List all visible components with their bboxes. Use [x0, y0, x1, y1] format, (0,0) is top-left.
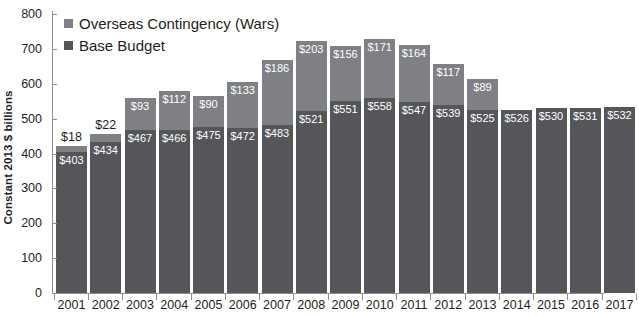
y-axis-tick-label: 700 — [8, 43, 42, 55]
bar-group[interactable]: $434$22 — [90, 134, 121, 293]
bar-value-label-overseas-contingency: $186 — [262, 63, 293, 74]
bar-value-label-base-budget: $403 — [56, 155, 87, 166]
bar-segment-base-budget[interactable]: $539 — [433, 105, 464, 293]
legend-swatch-icon — [64, 41, 73, 50]
bar-group[interactable]: $530 — [536, 108, 567, 293]
y-axis-tick-mark — [52, 49, 57, 50]
bar-segment-overseas-contingency[interactable]: $117 — [433, 64, 464, 105]
x-axis-tick-label: 2017 — [600, 298, 639, 312]
legend-label: Base Budget — [79, 38, 165, 53]
bar-value-label-overseas-contingency: $117 — [433, 67, 464, 78]
bar-value-label-base-budget: $472 — [227, 131, 258, 142]
bar-value-label-base-budget: $551 — [330, 104, 361, 115]
bar-value-label-base-budget: $530 — [536, 111, 567, 122]
bar-value-label-base-budget: $483 — [262, 128, 293, 139]
bar-value-label-base-budget: $434 — [90, 145, 121, 156]
y-axis-tick-mark — [52, 14, 57, 15]
x-axis-tick-label: 2001 — [52, 298, 91, 312]
bar-segment-base-budget[interactable]: $547 — [399, 102, 430, 293]
y-axis-tick-label: 400 — [8, 148, 42, 160]
bar-value-label-overseas-contingency: $164 — [399, 48, 430, 59]
bar-segment-overseas-contingency[interactable]: $89 — [467, 79, 498, 110]
bar-segment-overseas-contingency[interactable]: $171 — [364, 39, 395, 99]
y-axis-tick-label: 800 — [8, 8, 42, 20]
bar-value-label-base-budget: $532 — [604, 110, 635, 121]
y-axis-tick-label: 100 — [8, 252, 42, 264]
bar-segment-base-budget[interactable]: $472 — [227, 128, 258, 293]
bar-value-label-base-budget: $525 — [467, 113, 498, 124]
bar-segment-overseas-contingency[interactable]: $112 — [159, 91, 190, 130]
bar-segment-base-budget[interactable]: $532 — [604, 107, 635, 293]
bar-group[interactable]: $539$117 — [433, 64, 464, 293]
y-axis-tick-label: 300 — [8, 182, 42, 194]
bar-value-label-overseas-contingency: $93 — [125, 101, 156, 112]
bar-value-label-base-budget: $475 — [193, 130, 224, 141]
bar-group[interactable]: $525$89 — [467, 79, 498, 293]
bar-segment-base-budget[interactable]: $551 — [330, 101, 361, 293]
bar-value-label-base-budget: $467 — [125, 133, 156, 144]
x-axis-tick-label: 2010 — [360, 298, 399, 312]
bar-segment-base-budget[interactable]: $466 — [159, 130, 190, 293]
bar-segment-overseas-contingency[interactable]: $90 — [193, 96, 224, 127]
bar-segment-base-budget[interactable]: $467 — [125, 130, 156, 293]
bar-group[interactable]: $547$164 — [399, 45, 430, 293]
bar-segment-base-budget[interactable]: $558 — [364, 98, 395, 293]
bar-group[interactable]: $403$18 — [56, 146, 87, 293]
bar-segment-base-budget[interactable]: $525 — [467, 110, 498, 293]
y-axis-tick-mark — [52, 258, 57, 259]
x-axis-tick-label: 2008 — [292, 298, 331, 312]
x-axis-tick-label: 2004 — [155, 298, 194, 312]
bar-segment-base-budget[interactable]: $475 — [193, 127, 224, 293]
bar-segment-overseas-contingency[interactable] — [90, 134, 121, 142]
bar-segment-overseas-contingency[interactable]: $133 — [227, 82, 258, 128]
bar-value-label-base-budget: $558 — [364, 101, 395, 112]
bar-group[interactable]: $551$156 — [330, 46, 361, 293]
bar-segment-base-budget[interactable]: $483 — [262, 125, 293, 293]
legend-item[interactable]: Base Budget — [64, 35, 279, 55]
x-axis-tick-label: 2011 — [395, 298, 434, 312]
bar-segment-overseas-contingency[interactable]: $156 — [330, 46, 361, 100]
bar-group[interactable]: $475$90 — [193, 96, 224, 293]
bar-segment-base-budget[interactable]: $434 — [90, 142, 121, 293]
bar-segment-overseas-contingency[interactable]: $164 — [399, 45, 430, 102]
bar-value-label-base-budget: $539 — [433, 108, 464, 119]
y-axis-tick-label: 200 — [8, 217, 42, 229]
bar-value-label-base-budget: $547 — [399, 105, 430, 116]
y-axis-tick-mark — [52, 154, 57, 155]
bar-group[interactable]: $472$133 — [227, 82, 258, 293]
x-axis-tick-label: 2012 — [429, 298, 468, 312]
bar-group[interactable]: $466$112 — [159, 91, 190, 293]
bar-segment-base-budget[interactable]: $526 — [501, 110, 532, 293]
bar-group[interactable]: $483$186 — [262, 60, 293, 293]
bar-value-label-overseas-contingency: $203 — [296, 44, 327, 55]
bar-value-label-base-budget: $526 — [501, 113, 532, 124]
y-axis-tick-mark — [52, 188, 57, 189]
bar-segment-base-budget[interactable]: $530 — [536, 108, 567, 293]
bar-segment-base-budget[interactable]: $531 — [570, 108, 601, 293]
x-axis-tick-label: 2002 — [86, 298, 125, 312]
y-axis-tick-label: 500 — [8, 113, 42, 125]
bar-group[interactable]: $526 — [501, 110, 532, 293]
bar-segment-overseas-contingency[interactable]: $186 — [262, 60, 293, 125]
bar-group[interactable]: $532 — [604, 107, 635, 293]
bar-segment-base-budget[interactable]: $403 — [56, 152, 87, 293]
bar-value-label-overseas-contingency: $22 — [87, 119, 124, 131]
bar-segment-base-budget[interactable]: $521 — [296, 111, 327, 293]
bar-group[interactable]: $521$203 — [296, 41, 327, 293]
bar-segment-overseas-contingency[interactable]: $203 — [296, 41, 327, 112]
x-axis-tick-label: 2015 — [532, 298, 571, 312]
x-axis-tick-label: 2005 — [189, 298, 228, 312]
bar-value-label-base-budget: $466 — [159, 133, 190, 144]
bar-value-label-overseas-contingency: $171 — [364, 42, 395, 53]
bar-group[interactable]: $558$171 — [364, 39, 395, 293]
bar-segment-overseas-contingency[interactable] — [56, 146, 87, 152]
legend: Overseas Contingency (Wars)Base Budget — [64, 13, 279, 57]
bar-value-label-base-budget: $521 — [296, 114, 327, 125]
bar-value-label-base-budget: $531 — [570, 111, 601, 122]
bar-segment-overseas-contingency[interactable]: $93 — [125, 98, 156, 130]
bar-group[interactable]: $467$93 — [125, 98, 156, 293]
bar-group[interactable]: $531 — [570, 108, 601, 293]
legend-item[interactable]: Overseas Contingency (Wars) — [64, 13, 279, 33]
legend-swatch-icon — [64, 19, 73, 28]
